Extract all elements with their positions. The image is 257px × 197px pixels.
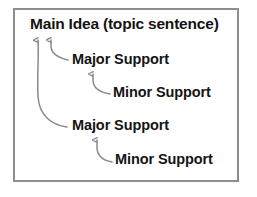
node-label-major-support-2: Major Support — [72, 118, 169, 133]
node-label-minor-support-2: Minor Support — [115, 152, 213, 167]
node-label-minor-support-1: Minor Support — [113, 85, 211, 100]
node-label-major-support-1: Major Support — [72, 52, 169, 67]
node-label-main-idea: Main Idea (topic sentence) — [30, 16, 219, 32]
diagram-canvas: Main Idea (topic sentence) Major Support… — [0, 0, 257, 197]
